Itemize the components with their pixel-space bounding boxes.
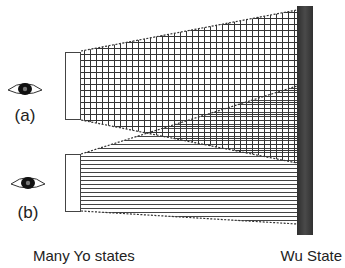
wu-state-bar: [297, 6, 313, 235]
eye-icon: [11, 177, 45, 189]
yo-source-b: [66, 155, 81, 212]
wu-state-caption: Wu State: [281, 247, 342, 264]
observer-label-a: (a): [15, 106, 36, 125]
beam-a: [81, 10, 297, 163]
yo-wu-diagram: (a) (b) Many Yo states Wu State: [0, 0, 345, 268]
yo-states-caption: Many Yo states: [33, 247, 135, 264]
observer-label-b: (b): [18, 203, 39, 222]
yo-source-a: [66, 53, 81, 120]
eye-icon: [8, 83, 42, 95]
